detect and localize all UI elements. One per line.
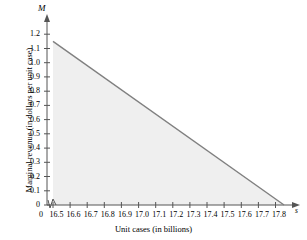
y-axis-symbol: M [38,3,46,13]
x-tick-label: 17.1 [152,211,166,219]
x-tick-label: 16.9 [118,211,132,219]
y-axis-title: Marginal revenue (in dollars per unit ca… [24,35,34,205]
x-tick-label: 17.6 [238,211,252,219]
x-tick-label: 17.5 [221,211,235,219]
x-axis-symbol: s [295,206,298,215]
x-tick-label: 17.3 [186,211,200,219]
x-tick-label: 16.8 [101,211,115,219]
x-tick-label: 16.6 [67,211,81,219]
x-tick-label: 17.7 [255,211,269,219]
x-tick-label: 17.2 [169,211,183,219]
x-origin-label: 0 [39,211,43,219]
x-tick-label: 17.8 [272,211,286,219]
chart-figure: M s 0 0.1 0.2 0.3 0.4 0.5 0.6 0.7 0.8 0.… [0,0,307,240]
y-axis-arrow-icon [44,14,50,22]
x-tick-label: 16.7 [84,211,98,219]
marginal-revenue-line-chart [0,0,307,240]
y-axis-title-container: Marginal revenue (in dollars per unit ca… [0,0,14,240]
x-axis-title: Unit cases (in billions) [0,224,307,234]
x-tick-label: 16.5 [50,211,64,219]
x-tick-label: 17.4 [204,211,218,219]
x-tick-label: 17.0 [135,211,149,219]
